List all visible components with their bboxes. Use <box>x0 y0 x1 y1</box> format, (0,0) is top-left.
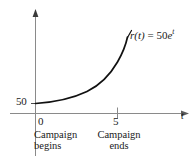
function-exponent: t <box>172 27 174 36</box>
exponential-curve <box>36 37 128 104</box>
annotation-campaign-ends: Campaign ends <box>93 129 145 151</box>
y-intercept-label: 50 <box>16 96 27 108</box>
annotation-campaign-begins-line1: Campaign <box>34 129 77 140</box>
function-coefficient: 50 <box>156 29 167 41</box>
exponential-growth-figure: 50 t 0 5 Campaign begins Campaign ends r… <box>0 0 192 160</box>
annotation-campaign-begins-line2: begins <box>34 140 77 151</box>
x-tick-label-0: 0 <box>38 116 44 128</box>
x-axis-variable-label: t <box>181 111 184 122</box>
annotation-campaign-ends-line2: ends <box>93 140 145 151</box>
function-name: r(t) <box>130 29 145 41</box>
function-equation-label: r(t) = 50et <box>130 30 174 42</box>
annotation-campaign-begins: Campaign begins <box>34 129 77 151</box>
y-axis-arrowhead <box>33 9 39 17</box>
x-tick-label-5: 5 <box>113 116 119 128</box>
annotation-campaign-ends-line1: Campaign <box>97 129 140 140</box>
